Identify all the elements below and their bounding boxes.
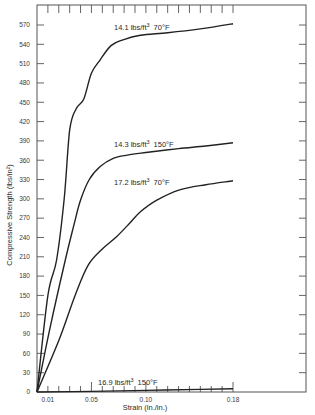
y-tick-label: 510 (19, 60, 30, 67)
y-tick-label: 300 (19, 195, 30, 202)
x-tick-label: 0.01 (42, 396, 55, 403)
y-tick-label: 240 (19, 234, 30, 241)
y-tick-label: 360 (19, 157, 30, 164)
y-tick-label: 540 (19, 41, 30, 48)
y-tick-label: 420 (19, 118, 30, 125)
y-tick-label: 390 (19, 137, 30, 144)
curve-labels: 14.1 lbs/ft370°F14.3 lbs/ft3150°F17.2 lb… (98, 22, 174, 387)
chart: 0306090120150180210240270300330360390420… (0, 0, 315, 415)
curve-label: 16.9 lbs/ft3150°F (98, 377, 158, 387)
y-tick-label: 480 (19, 79, 30, 86)
plot-frame (37, 5, 306, 392)
y-tick-label: 150 (19, 292, 30, 299)
y-tick-label: 0 (26, 388, 30, 395)
y-axis-title: Compressive Strength (lbs/in²) (5, 164, 14, 266)
curve-label: 14.3 lbs/ft3150°F (114, 139, 174, 149)
y-tick-label: 330 (19, 176, 30, 183)
y-tick-label: 30 (23, 369, 31, 376)
x-axis-ticks: 0.010.050.100.18 (42, 5, 240, 403)
y-tick-label: 270 (19, 214, 30, 221)
y-tick-label: 210 (19, 253, 30, 260)
y-axis-ticks: 0306090120150180210240270300330360390420… (19, 21, 306, 395)
x-tick-label: 0.05 (85, 396, 98, 403)
x-tick-label: 0.10 (140, 396, 153, 403)
y-tick-label: 450 (19, 99, 30, 106)
y-tick-label: 180 (19, 272, 30, 279)
curve-17-2-70f (37, 181, 233, 392)
x-axis-title: Strain (in./in.) (123, 403, 168, 412)
curve-label: 17.2 lbs/ft370°F (114, 177, 170, 187)
curve-14-1-70f (37, 24, 233, 392)
x-tick-label: 0.18 (227, 396, 240, 403)
y-tick-label: 60 (23, 350, 31, 357)
y-tick-label: 90 (23, 330, 31, 337)
y-tick-label: 120 (19, 311, 30, 318)
curve-label: 14.1 lbs/ft370°F (114, 22, 170, 32)
curves (37, 24, 233, 392)
y-tick-label: 570 (19, 21, 30, 28)
